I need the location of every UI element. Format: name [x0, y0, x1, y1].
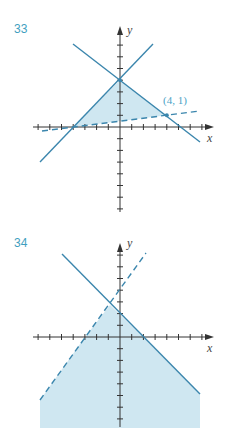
x-axis-label: x: [206, 131, 213, 145]
point-4-1: [165, 113, 169, 117]
y-axis-label: y: [126, 23, 133, 37]
point-label: (4, 1): [163, 94, 187, 107]
x-axis-arrow-icon: [205, 334, 214, 340]
y-axis-arrow-icon: [117, 26, 123, 35]
y-axis-arrow-icon: [117, 243, 123, 252]
y-axis-label: y: [126, 236, 133, 250]
x-axis-label: x: [206, 341, 213, 355]
graph-33: (4, 1) y x: [0, 0, 248, 220]
graph-34: y x: [0, 220, 248, 446]
vertex-point: [118, 78, 122, 82]
x-axis-arrow-icon: [205, 124, 214, 130]
